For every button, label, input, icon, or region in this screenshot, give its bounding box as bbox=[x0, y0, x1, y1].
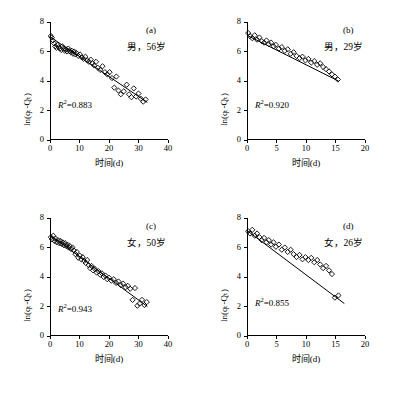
r-squared-annotation: R2=0.920 bbox=[255, 98, 289, 110]
data-point bbox=[309, 255, 314, 260]
y-axis-title: ln(qₜ-Qₜ) bbox=[22, 289, 32, 322]
data-point bbox=[288, 247, 293, 252]
chart-panel-a: 01020304002468时间(d)ln(qₜ-Qₜ)(a)男，56岁R2=0… bbox=[0, 0, 197, 196]
data-point bbox=[282, 245, 287, 250]
y-axis-title: ln(qₜ-Qₜ) bbox=[22, 93, 32, 126]
y-axis-title: ln(qₜ-Qₜ) bbox=[219, 289, 229, 322]
data-point bbox=[132, 285, 137, 290]
data-point bbox=[131, 86, 136, 91]
panel-letter: (c) bbox=[146, 221, 156, 231]
r-squared-annotation: R2=0.855 bbox=[255, 296, 289, 308]
data-point bbox=[128, 286, 133, 291]
x-axis-title: 时间(d) bbox=[50, 352, 168, 365]
chart-panel-b: 0510152002468时间(d)ln(qₜ-Qₜ)(b)男，29岁R2=0.… bbox=[197, 0, 394, 196]
data-point bbox=[312, 260, 317, 265]
x-axis-title: 时间(d) bbox=[247, 352, 365, 365]
data-point bbox=[323, 67, 328, 72]
data-point bbox=[297, 252, 302, 257]
data-point bbox=[279, 247, 284, 252]
r-squared-value: =0.855 bbox=[264, 298, 289, 308]
data-point bbox=[124, 82, 129, 87]
data-point bbox=[276, 242, 281, 247]
x-axis-title: 时间(d) bbox=[247, 156, 365, 169]
y-axis-title: ln(qₜ-Qₜ) bbox=[219, 93, 229, 126]
data-point bbox=[285, 249, 290, 254]
r-squared-annotation: R2=0.883 bbox=[58, 98, 92, 110]
panel-letter: (b) bbox=[343, 25, 354, 35]
panel-letter: (a) bbox=[146, 25, 156, 35]
x-axis-title: 时间(d) bbox=[50, 156, 168, 169]
r-squared-value: =0.883 bbox=[67, 100, 92, 110]
chart-panel-d: 0510152002468时间(d)ln(qₜ-Qₜ)(d)女，26岁R2=0.… bbox=[197, 196, 394, 393]
data-point bbox=[126, 92, 131, 97]
data-point bbox=[144, 299, 149, 304]
subject-annotation: 女，50岁 bbox=[106, 235, 166, 249]
data-point bbox=[130, 297, 135, 302]
figure-grid: 01020304002468时间(d)ln(qₜ-Qₜ)(a)男，56岁R2=0… bbox=[0, 0, 394, 393]
chart-panel-c: 01020304002468时间(d)ln(qₜ-Qₜ)(c)女，50岁R2=0… bbox=[0, 196, 197, 393]
data-point bbox=[323, 263, 328, 268]
subject-annotation: 男，56岁 bbox=[106, 39, 166, 53]
subject-annotation: 女，26岁 bbox=[303, 235, 363, 249]
r-squared-value: =0.920 bbox=[264, 100, 289, 110]
panel-letter: (d) bbox=[343, 221, 354, 231]
subject-annotation: 男，29岁 bbox=[303, 39, 363, 53]
data-point bbox=[315, 257, 320, 262]
r-squared-value: =0.943 bbox=[67, 304, 92, 314]
r-squared-annotation: R2=0.943 bbox=[58, 302, 92, 314]
data-point bbox=[112, 85, 117, 90]
data-point bbox=[300, 257, 305, 262]
data-point bbox=[129, 95, 134, 100]
